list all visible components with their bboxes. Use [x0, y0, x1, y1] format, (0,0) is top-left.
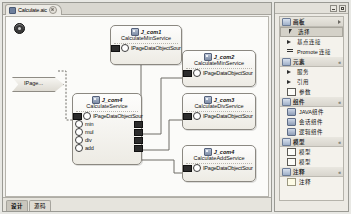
node-service-name: CalculateMinService — [114, 35, 178, 44]
node-title: J_com4 — [102, 97, 123, 103]
box-icon — [287, 158, 296, 166]
palette-item-model-2[interactable]: 模型 — [280, 157, 343, 167]
palette-item-parameter[interactable]: 参数 — [280, 87, 343, 97]
collapse-icon: « — [338, 169, 341, 175]
socket-icon — [183, 70, 192, 77]
collapse-icon: « — [338, 99, 341, 105]
palette-item-model-1[interactable]: 模型 — [280, 147, 343, 157]
palette-group-label: 画板 — [293, 18, 305, 26]
interface-label: IPageDataObjectSour — [131, 45, 181, 51]
socket-icon — [111, 45, 120, 52]
node-title: J_com2 — [214, 54, 235, 60]
required-port-icon — [134, 137, 143, 144]
tab-label: Calculate.aic — [18, 5, 47, 15]
node-interface-row[interactable]: IPageDataObjectSour — [191, 112, 255, 120]
palette-item-label: 逻辑组件 — [299, 128, 323, 136]
palette-item-label: 选择 — [298, 28, 310, 36]
folder-icon — [282, 138, 291, 146]
palette-group-notes[interactable]: 注释 « — [280, 167, 343, 177]
node-service-name: CalculateMinService — [186, 60, 252, 69]
arrow-icon — [287, 39, 294, 45]
tab-source[interactable]: 源码 — [29, 200, 51, 211]
palette-group-label: 组件 — [293, 98, 305, 106]
node-calculate-service[interactable]: J_com4 CalculateService IPageDataObjectS… — [72, 93, 142, 165]
socket-icon — [183, 165, 192, 172]
diagram-icon — [9, 7, 16, 14]
node-service-name: CalculateAddService — [186, 155, 252, 164]
node-j-com4[interactable]: J_com4 CalculateAddService IPageDataObje… — [182, 145, 256, 182]
port-label: div — [85, 137, 91, 143]
palette-item-reference[interactable]: 引用 — [280, 77, 343, 87]
palette-body: 画板 选择 基点连接 Promote 连接 元素 « — [279, 16, 344, 201]
node-title: J_com1 — [141, 29, 162, 35]
tab-calculate[interactable]: Calculate.aic — [5, 4, 62, 15]
port-row-add[interactable]: add — [73, 144, 141, 152]
editor-bottom-tabs: 设计 源码 — [3, 197, 271, 211]
palette-item-base-connection[interactable]: 基点连接 — [280, 37, 343, 47]
palette-group-label: 元素 — [293, 58, 305, 66]
palette-item-logic-component[interactable]: 逻辑组件 — [280, 127, 343, 137]
socket-icon — [73, 113, 82, 120]
component-icon — [204, 53, 212, 61]
node-service-name: CalculateService — [76, 103, 138, 112]
palette-group-components[interactable]: 组件 « — [280, 97, 343, 107]
palette-item-label: 参数 — [299, 88, 311, 96]
node-j-com2[interactable]: J_com2 CalculateMinService IPageDataObje… — [182, 50, 256, 87]
palette-item-session-component[interactable]: 会话组件 — [280, 117, 343, 127]
port-label: min — [85, 121, 93, 127]
interface-label: IPageDataObjectSour — [203, 113, 253, 119]
interface-label: IPageDataObjectSour — [203, 165, 253, 171]
collapse-icon: « — [338, 59, 341, 65]
palette-group-label: 注释 — [293, 168, 305, 176]
port-row-min[interactable]: min — [73, 120, 141, 128]
port-icon — [75, 144, 83, 152]
arrow-icon — [287, 69, 294, 75]
component-icon — [204, 148, 212, 156]
palette-group-elements[interactable]: 元素 « — [280, 57, 343, 67]
palette-item-label: 模型 — [299, 148, 311, 156]
folder-icon — [282, 58, 291, 66]
palette-item-promote-connection[interactable]: Promote 连接 — [280, 47, 343, 57]
application-window: Calculate.aic — [0, 0, 351, 214]
box-icon — [287, 148, 296, 156]
cursor-icon — [288, 29, 295, 35]
port-icon — [75, 120, 83, 128]
palette-item-label: 模型 — [299, 158, 311, 166]
interface-icon — [121, 44, 129, 52]
node-j-com1[interactable]: J_com1 CalculateMinService IPageDataObje… — [110, 25, 182, 65]
maximize-icon[interactable] — [339, 5, 346, 12]
node-interface-row[interactable]: IPageDataObjectSour — [81, 112, 141, 120]
node-j-com3[interactable]: J_com3 CalculateDivService IPageDataObje… — [182, 93, 256, 130]
node-interface-row[interactable]: IPageDataObjectSour — [191, 69, 255, 77]
palette-titlebar — [275, 3, 348, 14]
port-row-div[interactable]: div — [73, 136, 141, 144]
node-interface-row[interactable]: IPageDataObjectSour — [191, 164, 255, 172]
note-icon — [287, 178, 296, 186]
tab-design[interactable]: 设计 — [6, 200, 28, 211]
palette-item-note[interactable]: 注释 — [280, 177, 343, 187]
port-label: add — [85, 145, 94, 151]
start-marker-icon — [14, 23, 25, 34]
interface-label: IPageDataObjectSour — [203, 70, 253, 76]
component-icon — [287, 108, 296, 116]
required-port-icon — [134, 121, 143, 128]
palette-item-select[interactable]: 选择 — [280, 27, 343, 37]
node-service-name: CalculateDivService — [186, 103, 252, 112]
component-icon — [92, 96, 100, 104]
palette-group-models[interactable]: 模型 « — [280, 137, 343, 147]
diagram-canvas[interactable]: IPage... J_com1 CalculateMinService IPag… — [5, 16, 269, 197]
close-icon[interactable] — [49, 6, 57, 14]
folder-icon — [282, 98, 291, 106]
page-node[interactable]: IPage... — [12, 77, 64, 92]
palette-group-label: 模型 — [293, 138, 305, 146]
port-row-mul[interactable]: mul — [73, 128, 141, 136]
palette-item-java-component[interactable]: JAVA组件 — [280, 107, 343, 117]
palette-item-label: 注释 — [299, 178, 311, 186]
minimize-icon[interactable] — [330, 5, 337, 12]
palette-group-drawing[interactable]: 画板 — [280, 17, 343, 27]
port-label: mul — [85, 129, 93, 135]
node-interface-row[interactable]: IPageDataObjectSour — [119, 44, 181, 52]
palette-item-service[interactable]: 服务 — [280, 67, 343, 77]
palette-item-label: JAVA组件 — [299, 108, 324, 116]
box-icon — [287, 88, 296, 96]
